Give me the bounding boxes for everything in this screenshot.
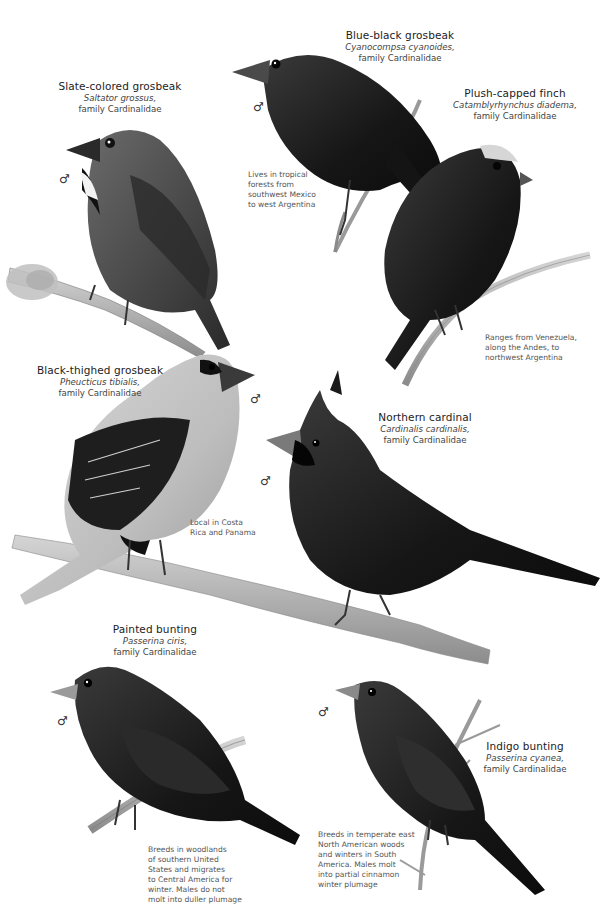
illustration-page: Blue-black grosbeak Cyanocompsa cyanoide… <box>0 0 609 917</box>
note-line: to west Argentina <box>248 200 316 210</box>
note-line: and winters in South <box>318 850 415 860</box>
label-black-thighed-grosbeak: Black-thighed grosbeak Pheucticus tibial… <box>30 364 170 399</box>
note-line: North American woods <box>318 840 415 850</box>
family-name: family Cardinalidae <box>320 53 480 64</box>
note-line: Lives in tropical <box>248 170 316 180</box>
bird-illustrations <box>0 0 609 917</box>
note-plush-capped-finch: Ranges from Venezuela, along the Andes, … <box>485 333 577 363</box>
note-line: southwest Mexico <box>248 190 316 200</box>
note-line: Breeds in woodlands <box>148 845 242 855</box>
note-indigo-bunting: Breeds in temperate east North American … <box>318 830 415 890</box>
note-painted-bunting: Breeds in woodlands of southern United S… <box>148 845 242 905</box>
note-line: forests from <box>248 180 316 190</box>
label-slate-colored-grosbeak: Slate-colored grosbeak Saltator grossus,… <box>40 80 200 115</box>
note-blue-black-grosbeak: Lives in tropical forests from southwest… <box>248 170 316 210</box>
male-symbol-icon: ♂ <box>57 714 68 728</box>
scientific-name: Pheucticus tibialis, <box>30 377 170 388</box>
family-name: family Cardinalidae <box>440 111 590 122</box>
family-name: family Cardinalidae <box>95 647 215 658</box>
family-name: family Cardinalidae <box>30 388 170 399</box>
common-name: Plush-capped finch <box>440 87 590 100</box>
common-name: Blue-black grosbeak <box>320 29 480 42</box>
scientific-name: Cyanocompsa cyanoides, <box>320 42 480 53</box>
note-line: molt into duller plumage <box>148 895 242 905</box>
scientific-name: Passerina ciris, <box>95 636 215 647</box>
label-northern-cardinal: Northern cardinal Cardinalis cardinalis,… <box>365 411 485 446</box>
note-line: Breeds in temperate east <box>318 830 415 840</box>
male-symbol-icon: ♂ <box>260 474 271 488</box>
label-indigo-bunting: Indigo bunting Passerina cyanea, family … <box>470 740 580 775</box>
common-name: Slate-colored grosbeak <box>40 80 200 93</box>
note-line: America. Males molt <box>318 860 415 870</box>
northern-cardinal-illustration <box>266 370 600 625</box>
common-name: Northern cardinal <box>365 411 485 424</box>
note-black-thighed-grosbeak: Local in Costa Rica and Panama <box>190 518 256 538</box>
note-line: Ranges from Venezuela, <box>485 333 577 343</box>
scientific-name: Saltator grossus, <box>40 93 200 104</box>
scientific-name: Passerina cyanea, <box>470 753 580 764</box>
note-line: to Central America for <box>148 875 242 885</box>
note-line: northwest Argentina <box>485 353 577 363</box>
scientific-name: Catamblyrhynchus diadema, <box>440 100 590 111</box>
note-line: States and migrates <box>148 865 242 875</box>
common-name: Painted bunting <box>95 623 215 636</box>
male-symbol-icon: ♂ <box>318 705 329 719</box>
label-painted-bunting: Painted bunting Passerina ciris, family … <box>95 623 215 658</box>
scientific-name: Cardinalis cardinalis, <box>365 424 485 435</box>
label-blue-black-grosbeak: Blue-black grosbeak Cyanocompsa cyanoide… <box>320 29 480 64</box>
note-line: of southern United <box>148 855 242 865</box>
note-line: Rica and Panama <box>190 528 256 538</box>
family-name: family Cardinalidae <box>365 435 485 446</box>
common-name: Black-thighed grosbeak <box>30 364 170 377</box>
label-plush-capped-finch: Plush-capped finch Catamblyrhynchus diad… <box>440 87 590 122</box>
family-name: family Cardinalidae <box>40 104 200 115</box>
note-line: winter. Males do not <box>148 885 242 895</box>
common-name: Indigo bunting <box>470 740 580 753</box>
male-symbol-icon: ♂ <box>253 100 264 114</box>
family-name: family Cardinalidae <box>470 764 580 775</box>
slate-colored-grosbeak-illustration <box>66 130 230 350</box>
note-line: winter plumage <box>318 880 415 890</box>
painted-bunting-illustration <box>50 667 300 845</box>
note-line: Local in Costa <box>190 518 256 528</box>
male-symbol-icon: ♂ <box>59 172 70 186</box>
note-line: into partial cinnamon <box>318 870 415 880</box>
male-symbol-icon: ♂ <box>250 392 261 406</box>
note-line: along the Andes, to <box>485 343 577 353</box>
